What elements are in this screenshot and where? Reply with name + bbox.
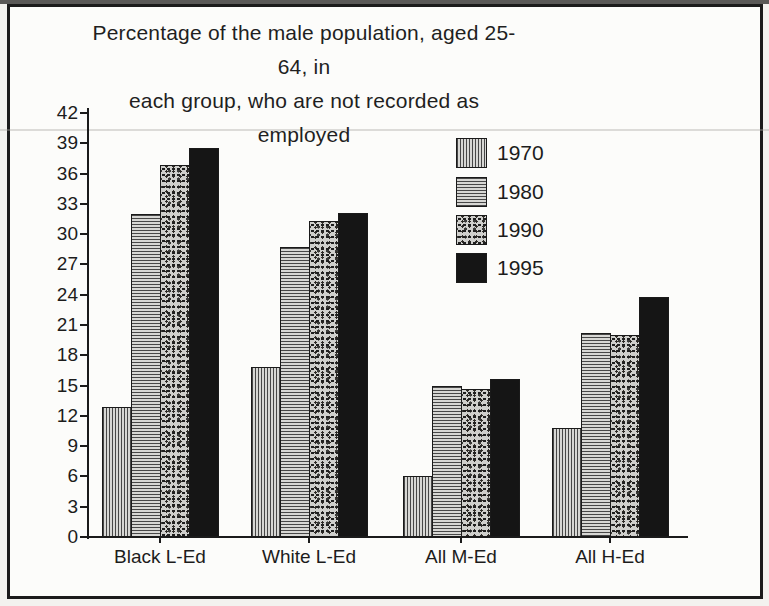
- legend-label-1970: 1970: [497, 138, 544, 168]
- bar-1990-white-l-ed: [309, 221, 339, 537]
- bar-1990-all-m-ed: [461, 389, 491, 537]
- y-axis-tick: [80, 445, 87, 447]
- bar-1980-all-m-ed: [432, 386, 462, 537]
- bar-1980-black-l-ed: [131, 214, 161, 537]
- y-axis-tick-label: 18: [38, 344, 78, 366]
- y-axis-tick: [80, 294, 87, 296]
- bar-1995-all-m-ed: [490, 379, 520, 537]
- bar-1990-all-h-ed: [610, 335, 640, 537]
- y-axis-line: [87, 108, 89, 539]
- y-axis-tick: [80, 354, 87, 356]
- y-axis-tick: [80, 142, 87, 144]
- legend-swatch-1980: [456, 177, 487, 207]
- y-axis-tick: [80, 173, 87, 175]
- y-axis-tick: [80, 506, 87, 508]
- y-axis-tick: [80, 475, 87, 477]
- y-axis-tick-label: 24: [38, 284, 78, 306]
- y-axis-tick-label: 27: [38, 253, 78, 275]
- x-axis-category-label: All H-Ed: [545, 546, 675, 568]
- legend-label-1980: 1980: [497, 177, 544, 207]
- y-axis-tick: [80, 415, 87, 417]
- y-axis-tick-label: 3: [38, 496, 78, 518]
- y-axis-tick: [80, 233, 87, 235]
- x-axis-tick: [460, 537, 462, 543]
- x-axis-category-label: All M-Ed: [396, 546, 526, 568]
- y-axis-tick: [80, 263, 87, 265]
- y-axis-tick: [80, 112, 87, 114]
- y-axis-tick: [80, 385, 87, 387]
- bar-1970-all-h-ed: [552, 428, 582, 537]
- legend-swatch-1990: [456, 215, 487, 245]
- bar-1995-all-h-ed: [639, 297, 669, 537]
- x-axis-category-label: Black L-Ed: [95, 546, 225, 568]
- y-axis-tick-label: 21: [38, 314, 78, 336]
- bar-1990-black-l-ed: [160, 165, 190, 537]
- y-axis-tick-label: 42: [38, 102, 78, 124]
- y-axis-tick: [80, 324, 87, 326]
- x-axis-category-label: White L-Ed: [244, 546, 374, 568]
- bar-chart: 03691215182124273033363942Black L-EdWhit…: [0, 0, 769, 606]
- x-axis-tick: [159, 537, 161, 543]
- bar-1995-black-l-ed: [189, 148, 219, 537]
- bar-1970-white-l-ed: [251, 367, 281, 537]
- scanned-page: Percentage of the male population, aged …: [0, 0, 769, 606]
- legend-label-1995: 1995: [497, 253, 544, 283]
- y-axis-tick-label: 0: [38, 526, 78, 548]
- y-axis-tick-label: 39: [38, 132, 78, 154]
- x-axis-tick: [308, 537, 310, 543]
- legend-swatch-1995: [456, 253, 487, 283]
- bar-1970-black-l-ed: [102, 407, 132, 537]
- y-axis-tick-label: 30: [38, 223, 78, 245]
- y-axis-tick-label: 12: [38, 405, 78, 427]
- bar-1980-white-l-ed: [280, 247, 310, 537]
- bar-1980-all-h-ed: [581, 333, 611, 537]
- x-axis-tick: [609, 537, 611, 543]
- y-axis-tick: [80, 203, 87, 205]
- y-axis-tick-label: 9: [38, 435, 78, 457]
- y-axis-tick-label: 33: [38, 193, 78, 215]
- y-axis-tick-label: 15: [38, 375, 78, 397]
- bar-1970-all-m-ed: [403, 476, 433, 537]
- bar-1995-white-l-ed: [338, 213, 368, 537]
- legend-label-1990: 1990: [497, 215, 544, 245]
- y-axis-tick-label: 6: [38, 465, 78, 487]
- y-axis-tick-label: 36: [38, 163, 78, 185]
- y-axis-tick: [80, 536, 87, 538]
- legend-swatch-1970: [456, 138, 487, 168]
